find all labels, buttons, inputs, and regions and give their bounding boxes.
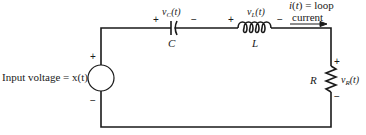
inductor-coil-icon (238, 22, 271, 33)
inductor-plus-sign: + (228, 15, 234, 25)
wire-bottom (101, 91, 331, 127)
current-label-line1: i(t) = loop (289, 0, 334, 11)
voltage-source-icon (88, 65, 114, 91)
current-label-line2: current (292, 12, 323, 23)
inductor-minus-sign: − (277, 15, 283, 25)
resistor-zigzag-icon (326, 66, 336, 92)
resistor-minus-sign: − (334, 92, 340, 102)
inductor-voltage-label: vL(t) (247, 7, 265, 19)
capacitor-voltage-arg: (t) (171, 6, 180, 17)
source-label: Input voltage = x(t) (2, 72, 88, 83)
inductor-name: L (252, 38, 258, 49)
resistor-name: R (310, 75, 317, 86)
inductor-voltage-arg: (t) (255, 6, 264, 17)
capacitor-minus-sign: − (191, 15, 197, 25)
source-minus-sign: − (90, 96, 96, 106)
resistor-voltage-arg: (t) (350, 74, 359, 85)
source-plus-sign: + (90, 52, 96, 62)
resistor-plus-sign: + (334, 57, 340, 67)
capacitor-plus-sign: + (153, 15, 159, 25)
wire-left-top (101, 28, 171, 65)
rlc-circuit-diagram: Input voltage = x(t) + − + − vC(t) C + −… (0, 0, 366, 135)
resistor-voltage-label: vR(t) (341, 75, 359, 87)
capacitor-voltage-label: vC(t) (162, 7, 181, 19)
capacitor-name: C (168, 38, 175, 49)
wire-inductor-to-resistor (271, 28, 331, 66)
